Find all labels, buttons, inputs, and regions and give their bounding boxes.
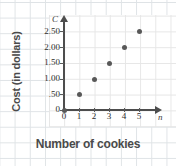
x-axis-title: Number of cookies <box>0 138 176 150</box>
y-tick-mark <box>60 79 64 80</box>
y-tick-label-050: .50 <box>36 90 60 99</box>
y-axis-arrow-icon <box>60 15 68 22</box>
x-tick-label-5: 5 <box>133 112 145 121</box>
y-tick-mark <box>60 31 64 32</box>
data-point <box>122 45 127 50</box>
y-tick-label-0: 0 <box>36 105 60 114</box>
data-point <box>137 29 142 34</box>
chart-screenshot: C n 0 .50 1.00 1.50 2.00 2.50 0 1 2 3 4 … <box>0 0 176 166</box>
x-tick-label-0: 0 <box>58 112 70 121</box>
x-tick-label-2: 2 <box>88 112 100 121</box>
data-point <box>92 77 97 82</box>
x-tick-label-1: 1 <box>73 112 85 121</box>
y-axis-title: Cost (in dollars) <box>11 20 22 124</box>
data-point <box>62 108 67 113</box>
y-tick-label-250: 2.50 <box>36 27 60 36</box>
x-tick-label-3: 3 <box>103 112 115 121</box>
data-point <box>77 92 82 97</box>
y-tick-mark <box>60 47 64 48</box>
y-tick-mark <box>60 94 64 95</box>
y-axis-variable-label: C <box>52 15 58 24</box>
y-tick-label-150: 1.50 <box>36 58 60 67</box>
y-tick-label-200: 2.00 <box>36 43 60 52</box>
y-tick-mark <box>60 63 64 64</box>
x-axis-variable-label: n <box>158 113 163 122</box>
y-tick-label-100: 1.00 <box>36 74 60 83</box>
y-axis-line <box>63 21 65 111</box>
data-point <box>107 61 112 66</box>
x-tick-label-4: 4 <box>118 112 130 121</box>
